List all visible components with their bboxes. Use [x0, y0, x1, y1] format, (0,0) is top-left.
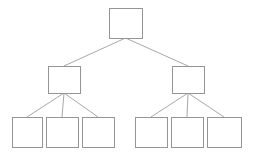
node-box[interactable] [49, 67, 81, 94]
connector-line [62, 93, 64, 117]
node-leaf-1[interactable] [13, 118, 43, 148]
node-box[interactable] [208, 118, 242, 148]
node-leaf-4[interactable] [136, 118, 168, 148]
node-box[interactable] [83, 118, 115, 148]
node-box[interactable] [13, 118, 43, 148]
node-leaf-3[interactable] [83, 118, 115, 148]
node-leaf-6[interactable] [208, 118, 242, 148]
connector-line [27, 93, 64, 117]
node-root[interactable] [110, 9, 143, 39]
node-box[interactable] [47, 118, 79, 148]
node-mid-left[interactable] [49, 67, 81, 94]
node-mid-right[interactable] [173, 67, 205, 94]
node-box[interactable] [172, 118, 204, 148]
node-box[interactable] [136, 118, 168, 148]
node-leaf-5[interactable] [172, 118, 204, 148]
connector-line [64, 93, 98, 117]
connector-line [187, 93, 188, 117]
node-boxes-group [13, 9, 242, 148]
node-box[interactable] [110, 9, 143, 39]
connector-line [126, 38, 189, 66]
node-leaf-2[interactable] [47, 118, 79, 148]
connector-line [64, 38, 126, 66]
connector-line [151, 93, 188, 117]
tree-diagram-canvas [0, 0, 253, 154]
node-box[interactable] [173, 67, 205, 94]
tree-diagram-svg [0, 0, 253, 154]
connector-line [188, 93, 224, 117]
